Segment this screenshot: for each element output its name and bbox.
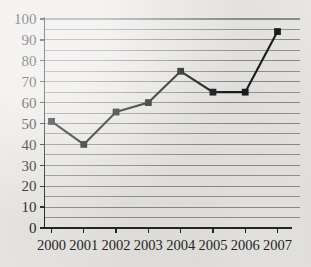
x-axis-tick-labels: 20002001200220032004200520062007 [37, 237, 292, 253]
gridlines-group [45, 19, 301, 218]
series-line [52, 32, 278, 145]
y-axis-tick-labels: 0102030405060708090100 [14, 11, 37, 236]
axes-group [40, 17, 293, 233]
data-point-marker [113, 109, 120, 116]
data-point-marker [145, 99, 152, 106]
data-point-marker [274, 28, 281, 35]
y-axis-tick-label: 40 [22, 137, 37, 153]
line-chart: 0102030405060708090100 20002001200220032… [0, 0, 311, 267]
y-axis-tick-label: 90 [22, 32, 37, 48]
y-axis-tick-label: 30 [22, 158, 37, 174]
x-axis-tick-label: 2001 [69, 237, 98, 253]
y-axis-tick-label: 100 [14, 11, 37, 27]
chart-container: 0102030405060708090100 20002001200220032… [0, 0, 311, 267]
x-axis-tick-label: 2000 [37, 237, 66, 253]
y-axis-tick-label: 80 [22, 53, 37, 69]
y-axis-tick-label: 20 [22, 178, 37, 194]
y-axis-tick-label: 50 [22, 116, 37, 132]
data-point-marker [210, 89, 217, 96]
x-axis-tick-label: 2006 [231, 237, 260, 253]
x-axis-tick-label: 2005 [198, 237, 227, 253]
data-point-marker [80, 141, 87, 148]
data-point-marker [48, 118, 55, 125]
x-axis-tick-label: 2004 [166, 237, 196, 253]
x-axis-tick-label: 2003 [134, 237, 163, 253]
y-axis-tick-label: 0 [29, 220, 37, 236]
y-axis-tick-label: 70 [22, 74, 37, 90]
y-axis-tick-label: 10 [22, 199, 37, 215]
data-point-marker [177, 68, 184, 75]
y-axis-tick-label: 60 [22, 95, 37, 111]
x-axis-tick-label: 2002 [102, 237, 131, 253]
data-series-group [48, 28, 281, 148]
x-axis-tick-label: 2007 [263, 237, 292, 253]
data-point-marker [242, 89, 249, 96]
